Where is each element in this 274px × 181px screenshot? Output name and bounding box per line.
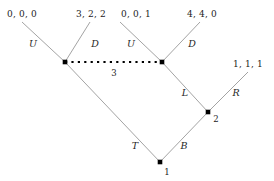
- edge-node1-T: [65, 62, 160, 162]
- edge-right-D: [162, 22, 200, 62]
- edge-node2-R: [208, 72, 248, 112]
- node-player-1: [158, 160, 163, 165]
- node-infoset-right: [160, 60, 165, 65]
- edge-left-U: [22, 22, 65, 62]
- tree-nodes: [63, 60, 211, 165]
- edge-left-D: [65, 22, 90, 62]
- game-tree-canvas: [0, 0, 274, 181]
- edge-right-U: [120, 22, 162, 62]
- edge-node2-L: [162, 62, 208, 112]
- node-infoset-left: [63, 60, 68, 65]
- edge-node1-B: [160, 112, 208, 162]
- node-player-2: [206, 110, 211, 115]
- game-tree-figure: 0, 0, 03, 2, 20, 0, 14, 4, 01, 1, 1UDUDL…: [0, 0, 274, 181]
- tree-edges: [22, 22, 248, 162]
